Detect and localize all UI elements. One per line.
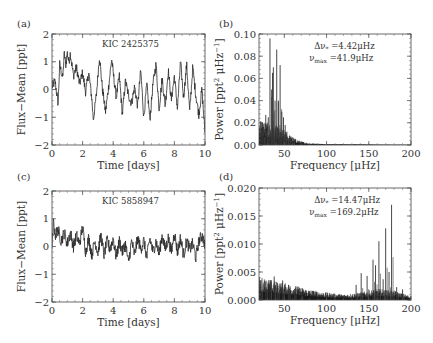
x-tick-label: 10 [199,305,212,316]
x-tick-label: 100 [317,148,336,159]
y-axis-title: Power [ppt2 μHz−1] [213,38,225,140]
y-tick-label: 0.00 [234,140,256,151]
x-axis-title: Time [days] [97,159,159,171]
y-tick-label: 0.08 [234,51,256,62]
x-axis-title: Frequency [μHz] [290,314,380,326]
light-curve [52,51,205,133]
y-tick-label: 0 [43,241,49,252]
y-tick-label: 2 [43,186,49,197]
y-tick-label: −2 [34,297,49,308]
plot-area-b: 501001502000.000.020.040.060.080.10Frequ… [213,29,421,172]
panel-a: (a) 0246810−2−1012Time [days]Flux−Mean [… [15,18,211,171]
figure: (a) 0246810−2−1012Time [days]Flux−Mean [… [0,0,433,343]
x-axis-title: Frequency [μHz] [290,159,380,171]
panel-label-c: (c) [17,171,31,182]
y-tick-label: 0.04 [234,95,256,106]
y-tick-label: 0.06 [234,73,256,84]
y-tick-label: 0.005 [227,267,256,278]
y-tick-label: 0.020 [227,183,256,194]
x-tick-label: 10 [199,148,212,159]
x-tick-label: 150 [359,148,378,159]
y-tick-label: −1 [34,112,49,123]
y-tick-label: 0 [43,84,49,95]
star-id-label: KIC 5858947 [102,196,159,206]
x-tick-label: 2 [79,305,85,316]
panel-label-a: (a) [17,18,31,29]
y-tick-label: 0.010 [227,239,256,250]
x-tick-label: 100 [317,303,336,314]
y-tick-label: −1 [34,269,49,280]
x-tick-label: 200 [401,303,420,314]
x-tick-label: 6 [141,148,147,159]
y-axis-title: Flux−Mean [ppt] [15,44,27,135]
y-tick-label: 1 [43,213,49,224]
data-series [259,205,411,300]
x-tick-label: 2 [79,148,85,159]
nu-max-annotation: νmax =169.2μHz [309,207,379,218]
star-id-label: KIC 2425375 [102,39,159,49]
panel-label-b: (b) [219,18,233,29]
y-tick-label: 0.015 [227,211,256,222]
delta-nu-annotation: Δν* =14.47μHz [314,195,380,206]
y-axis-title: Flux−Mean [ppt] [15,201,27,292]
panel-d: (d) 501001502000.0000.0050.0100.0150.020… [213,171,421,326]
x-tick-label: 0 [49,148,55,159]
x-tick-label: 4 [110,148,116,159]
data-series [52,219,205,262]
x-tick-label: 200 [401,148,420,159]
plot-area-a: 0246810−2−1012Time [days]Flux−Mean [ppt]… [15,29,211,172]
x-tick-label: 50 [278,148,291,159]
plot-area-d: 501001502000.0000.0050.0100.0150.020Freq… [213,183,421,327]
x-tick-label: 8 [171,148,177,159]
x-tick-label: 4 [110,305,116,316]
light-curve [52,219,205,262]
x-axis-title: Time [days] [97,316,159,328]
y-tick-label: 0.10 [234,29,256,40]
y-tick-label: 2 [43,29,49,40]
y-axis-title: Power [ppt2 μHz−1] [213,193,225,295]
panel-b: (b) 501001502000.000.020.040.060.080.10F… [213,18,421,171]
x-tick-label: 150 [359,303,378,314]
data-series [52,51,205,133]
panel-c: (c) 0246810−2−1012Time [days]Flux−Mean [… [15,171,211,328]
x-tick-label: 0 [49,305,55,316]
delta-nu-annotation: Δν* =4.42μHz [314,41,375,52]
axes-frame [52,34,205,145]
y-tick-label: 0.02 [234,117,256,128]
panel-label-d: (d) [219,171,233,182]
nu-max-annotation: νmax =41.9μHz [309,53,374,64]
x-tick-label: 50 [278,303,291,314]
x-tick-label: 6 [141,305,147,316]
y-tick-label: 0.000 [227,295,256,306]
y-tick-label: 1 [43,56,49,67]
x-tick-label: 8 [171,305,177,316]
y-tick-label: −2 [34,140,49,151]
plot-area-c: 0246810−2−1012Time [days]Flux−Mean [ppt]… [15,186,211,329]
